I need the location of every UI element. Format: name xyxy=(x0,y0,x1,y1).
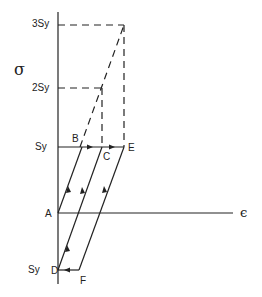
line-f-e xyxy=(79,147,124,270)
label-sy: Sy xyxy=(35,142,47,152)
arrow-c-e-icon xyxy=(109,145,115,150)
point-f-label: F xyxy=(80,276,86,286)
arrow-c-d-icon xyxy=(80,187,85,194)
arrow-f-e-icon xyxy=(102,186,107,193)
label-3sy: 3Sy xyxy=(32,19,49,29)
epsilon-axis-label: ϵ xyxy=(240,206,247,219)
label-neg-sy: Sy xyxy=(28,265,40,275)
arrow-f-d-icon xyxy=(64,268,70,273)
sigma-axis-label: σ xyxy=(14,62,25,78)
arrow-b-c-icon xyxy=(87,145,93,150)
point-c-label: C xyxy=(103,152,110,162)
line-a-b xyxy=(58,147,82,213)
line-d-c xyxy=(58,147,102,270)
point-d-label: D xyxy=(51,266,58,276)
point-b-label: B xyxy=(72,134,79,144)
point-a-label: A xyxy=(45,209,52,219)
point-e-label: E xyxy=(128,143,135,153)
label-2sy: 2Sy xyxy=(32,83,49,93)
